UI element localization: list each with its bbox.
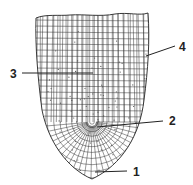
label-3: 3 — [10, 67, 17, 81]
root-tip-diagram: 1234 — [0, 0, 193, 185]
label-1: 1 — [133, 165, 140, 179]
leader-line-4 — [146, 46, 175, 56]
label-2: 2 — [169, 114, 176, 128]
root-tip — [0, 2, 193, 185]
label-4: 4 — [179, 40, 186, 54]
